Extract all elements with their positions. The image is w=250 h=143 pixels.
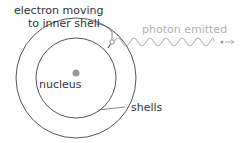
photon-wave xyxy=(114,38,214,46)
electron-label: electron moving xyxy=(14,5,103,16)
electron-label-line2: to inner shell xyxy=(28,18,100,29)
electron-icon xyxy=(110,40,114,44)
shells-label: shells xyxy=(131,102,162,113)
photon-label: photon emitted xyxy=(142,24,227,35)
photon-arrow-icon xyxy=(225,40,234,44)
nucleus-label: nucleus xyxy=(39,79,82,90)
photon-dot xyxy=(221,41,224,44)
nucleus-dot xyxy=(73,70,80,77)
